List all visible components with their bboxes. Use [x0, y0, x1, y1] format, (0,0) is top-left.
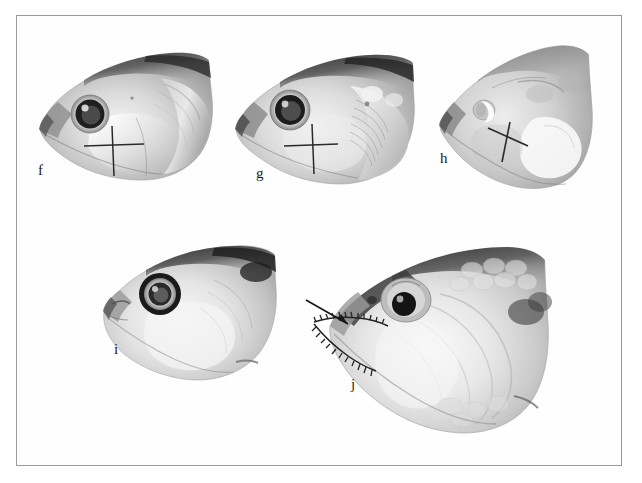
fish-head-image-i — [96, 236, 282, 392]
panel-label-g: g — [256, 166, 264, 181]
panel-label-f: f — [38, 163, 43, 178]
panel-f: f — [28, 34, 228, 189]
panel-label-h: h — [440, 151, 448, 166]
panel-label-i: i — [114, 342, 118, 357]
fish-head-image-j — [300, 238, 554, 438]
panel-i: i — [96, 236, 282, 392]
panel-j: j — [300, 238, 554, 438]
figure-plate: f — [0, 0, 642, 483]
panel-label-j: j — [351, 377, 355, 392]
fish-head-image-h — [432, 38, 606, 194]
fish-head-image-f — [28, 34, 228, 189]
panel-h: h — [432, 38, 606, 194]
panel-g: g — [226, 38, 422, 190]
